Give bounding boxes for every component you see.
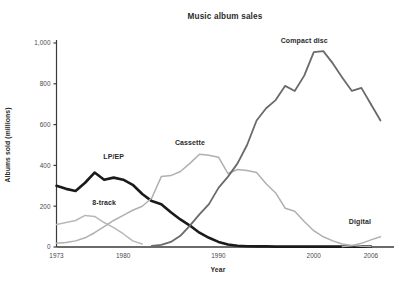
y-axis-tick-label: 400 <box>40 162 51 169</box>
y-axis-title: Albums sold (millions) <box>4 107 12 182</box>
y-axis-tick-label: 800 <box>40 80 51 87</box>
series-label-8-track: 8-track <box>92 199 116 206</box>
y-axis-tick-label: 200 <box>40 203 51 210</box>
y-axis-tick-label: 1,000 <box>34 39 51 46</box>
series-line-compact-disc-tail <box>371 104 381 120</box>
chart-container: Music album sales02004006008001,00019731… <box>0 0 415 292</box>
chart-title: Music album sales <box>188 12 263 21</box>
music-album-sales-line-chart: Music album sales02004006008001,00019731… <box>0 0 415 292</box>
x-axis-tick-label: 1980 <box>116 252 131 259</box>
x-axis-tick-label: 2006 <box>364 252 379 259</box>
series-label-cassette: Cassette <box>175 139 205 146</box>
series-label-compact-disc: Compact disc <box>281 37 328 45</box>
x-axis-tick-label: 1973 <box>49 252 64 259</box>
y-axis-tick-label: 600 <box>40 121 51 128</box>
series-line-compact-disc <box>152 51 371 246</box>
series-label-digital: Digital <box>349 218 371 226</box>
x-axis-tick-label: 1990 <box>211 252 226 259</box>
y-axis-tick-label: 0 <box>47 243 51 250</box>
x-axis-tick-label: 2000 <box>307 252 322 259</box>
series-label-lp-ep: LP/EP <box>103 153 124 160</box>
series-line-lp-ep <box>57 173 371 247</box>
x-axis-title: Year <box>211 266 226 273</box>
